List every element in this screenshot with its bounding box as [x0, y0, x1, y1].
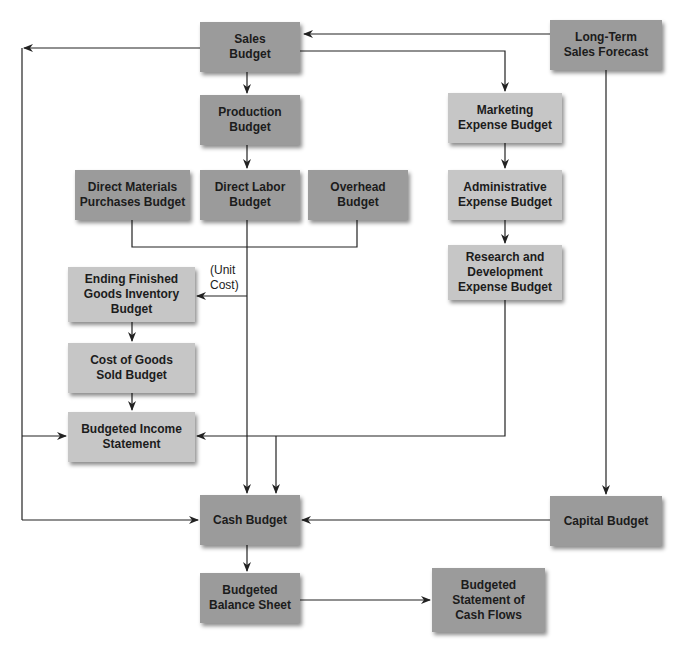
node-administrative-expense-budget: Administrative Expense Budget	[448, 170, 562, 220]
node-research-development-expense-budget: Research and Development Expense Budget	[448, 245, 562, 300]
node-label: Marketing Expense Budget	[458, 103, 552, 133]
edge-rd-to-income	[197, 300, 505, 436]
node-label: Research and Development Expense Budget	[458, 250, 552, 295]
node-direct-materials-purchases-budget: Direct Materials Purchases Budget	[75, 170, 190, 220]
node-label: Cash Budget	[213, 513, 287, 528]
node-label: Sales Budget	[229, 32, 270, 62]
node-cost-of-goods-sold-budget: Cost of Goods Sold Budget	[68, 343, 195, 393]
connector-lines	[0, 0, 690, 654]
node-label: Long-Term Sales Forecast	[564, 30, 649, 60]
node-ending-finished-goods-inventory-budget: Ending Finished Goods Inventory Budget	[68, 267, 195, 322]
node-sales-budget: Sales Budget	[200, 22, 300, 72]
node-label: Budgeted Income Statement	[81, 422, 182, 452]
master-budget-flowchart: Sales Budget Long-Term Sales Forecast Pr…	[0, 0, 690, 654]
node-label: Ending Finished Goods Inventory Budget	[84, 272, 179, 317]
node-label: Capital Budget	[564, 514, 649, 529]
node-label: Cost of Goods Sold Budget	[90, 353, 173, 383]
node-label: Direct Labor Budget	[215, 180, 286, 210]
node-label: Direct Materials Purchases Budget	[80, 180, 185, 210]
node-direct-labor-budget: Direct Labor Budget	[200, 170, 300, 220]
node-label: Overhead Budget	[330, 180, 385, 210]
node-cash-budget: Cash Budget	[200, 495, 300, 545]
node-overhead-budget: Overhead Budget	[308, 170, 408, 220]
node-long-term-sales-forecast: Long-Term Sales Forecast	[550, 20, 662, 70]
node-budgeted-statement-of-cash-flows: Budgeted Statement of Cash Flows	[432, 568, 545, 632]
node-marketing-expense-budget: Marketing Expense Budget	[448, 93, 562, 143]
node-label: Administrative Expense Budget	[458, 180, 552, 210]
edge-sales-to-marketing	[300, 51, 505, 91]
node-label: Production Budget	[218, 105, 281, 135]
node-capital-budget: Capital Budget	[550, 496, 662, 546]
node-budgeted-income-statement: Budgeted Income Statement	[68, 412, 195, 462]
node-budgeted-balance-sheet: Budgeted Balance Sheet	[200, 573, 300, 623]
node-production-budget: Production Budget	[200, 95, 300, 145]
unit-cost-annotation: (Unit Cost)	[210, 263, 239, 293]
node-label: Budgeted Statement of Cash Flows	[452, 578, 525, 623]
collector-line	[132, 220, 357, 247]
node-label: Budgeted Balance Sheet	[209, 583, 291, 613]
